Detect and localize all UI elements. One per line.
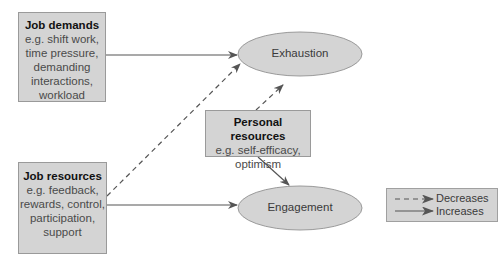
- job-resources-line: participation,: [19, 211, 106, 225]
- job-resources-title: Job resources: [19, 169, 106, 183]
- arrow-personal-to-exhaustion: [256, 85, 283, 110]
- job-resources-node: Job resources e.g. feedback, rewards, co…: [18, 162, 107, 254]
- job-demands-line: time pressure,: [19, 46, 105, 60]
- job-demands-line: demanding: [19, 60, 105, 74]
- job-resources-line: e.g. feedback,: [19, 183, 106, 197]
- job-demands-line: interactions,: [19, 74, 105, 88]
- personal-resources-line: e.g. self-efficacy,: [206, 143, 310, 157]
- personal-resources-title: Personal resources: [206, 115, 310, 143]
- job-demands-node: Job demands e.g. shift work, time pressu…: [18, 12, 106, 102]
- legend-arrows: [387, 189, 437, 223]
- job-demands-line: e.g. shift work,: [19, 32, 105, 46]
- legend-increases-label: Increases: [436, 205, 484, 217]
- legend-decreases-label: Decreases: [436, 192, 489, 204]
- personal-resources-line: optimism: [206, 157, 310, 171]
- legend: Decreases Increases: [386, 188, 498, 222]
- job-demands-line: workload: [19, 88, 105, 102]
- engagement-label: Engagement: [238, 201, 362, 213]
- personal-resources-node: Personal resources e.g. self-efficacy, o…: [205, 110, 311, 157]
- job-resources-line: support: [19, 225, 106, 239]
- job-demands-title: Job demands: [19, 18, 105, 32]
- exhaustion-label: Exhaustion: [238, 47, 362, 59]
- job-resources-line: rewards, control,: [19, 197, 106, 211]
